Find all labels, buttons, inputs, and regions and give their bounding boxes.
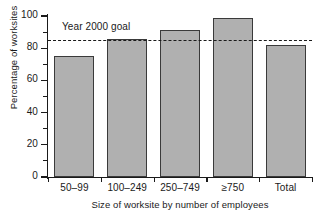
goal-annotation-label: Year 2000 goal — [62, 21, 130, 32]
bar-3 — [213, 18, 253, 177]
y-minor-tick-70 — [43, 64, 47, 65]
x-tick-label-0: 50–99 — [48, 182, 101, 193]
x-axis-title: Size of worksite by number of employees — [48, 199, 312, 210]
y-tick-0 — [41, 176, 47, 177]
y-tick-80 — [41, 48, 47, 49]
y-minor-tick-50 — [43, 96, 47, 97]
y-tick-100 — [41, 15, 47, 16]
y-tick-label-0: 0 — [0, 170, 38, 181]
y-tick-label-100: 100 — [0, 9, 38, 20]
bar-2 — [160, 30, 200, 177]
x-tick-label-2: 250–749 — [154, 182, 207, 193]
x-tick-label-1: 100–249 — [101, 182, 154, 193]
y-tick-label-60: 60 — [0, 73, 38, 84]
x-axis-line — [47, 177, 312, 178]
goal-reference-line — [48, 40, 312, 41]
y-minor-tick-90 — [43, 32, 47, 33]
bar-0 — [54, 56, 94, 177]
y-tick-label-80: 80 — [0, 41, 38, 52]
y-tick-60 — [41, 80, 47, 81]
x-tick-end — [312, 177, 313, 182]
y-tick-20 — [41, 144, 47, 145]
y-minor-tick-10 — [43, 160, 47, 161]
y-tick-label-20: 20 — [0, 138, 38, 149]
y-tick-label-40: 40 — [0, 106, 38, 117]
y-axis-line — [47, 14, 48, 179]
bar-1 — [107, 39, 147, 177]
y-tick-40 — [41, 112, 47, 113]
x-tick-label-4: Total — [259, 182, 312, 193]
bar-chart: Percentage of worksites 020406080100 50–… — [0, 0, 317, 218]
x-tick-label-3: ≥750 — [206, 182, 259, 193]
bar-4 — [266, 45, 306, 177]
y-minor-tick-30 — [43, 128, 47, 129]
